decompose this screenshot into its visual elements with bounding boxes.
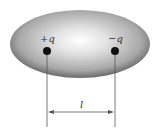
positive-charge-label: +q <box>40 33 55 44</box>
positive-charge <box>43 47 51 55</box>
arrowhead-right-icon <box>108 110 114 114</box>
dipole-diagram: +q −q l <box>0 0 160 138</box>
negative-charge-label: −q <box>108 33 123 44</box>
arrowhead-left-icon <box>48 110 54 114</box>
distance-label: l <box>80 99 83 110</box>
negative-charge <box>111 47 119 55</box>
charged-ellipsoid <box>10 10 150 78</box>
